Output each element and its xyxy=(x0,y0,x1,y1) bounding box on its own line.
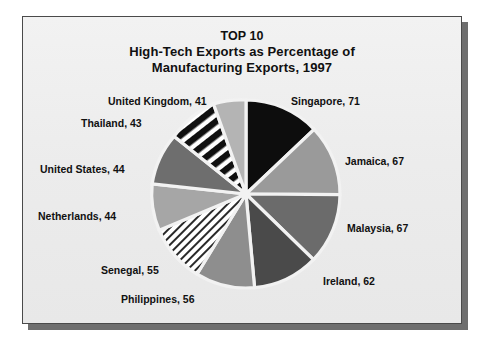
pie-label-united-states: United States, 44 xyxy=(40,163,125,175)
pie-label-singapore: Singapore, 71 xyxy=(291,95,360,107)
pie-label-ireland: Ireland, 62 xyxy=(323,275,375,287)
pie-label-thailand: Thailand, 43 xyxy=(81,117,142,129)
pie-label-jamaica: Jamaica, 67 xyxy=(345,155,404,167)
pie-label-malaysia: Malaysia, 67 xyxy=(347,222,408,234)
pie-label-united-kingdom: United Kingdom, 41 xyxy=(108,95,207,107)
pie-chart-area: Singapore, 71 Jamaica, 67 Malaysia, 67 I… xyxy=(23,17,461,323)
pie-label-senegal: Senegal, 55 xyxy=(101,264,159,276)
pie-label-netherlands: Netherlands, 44 xyxy=(38,210,116,222)
chart-figure-frame: TOP 10 High-Tech Exports as Percentage o… xyxy=(22,16,462,324)
pie-label-philippines: Philippines, 56 xyxy=(121,293,195,305)
pie-slices xyxy=(152,100,340,288)
screenshot-root: TOP 10 High-Tech Exports as Percentage o… xyxy=(0,0,480,343)
